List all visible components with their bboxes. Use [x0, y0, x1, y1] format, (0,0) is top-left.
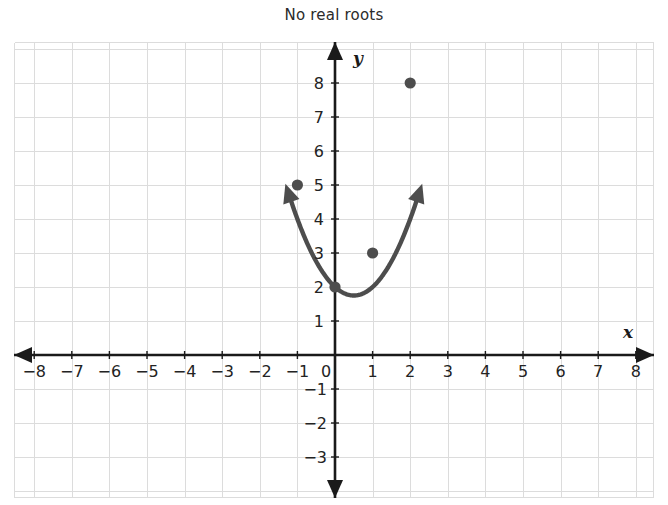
- graph-figure: No real roots: [0, 0, 668, 505]
- plot-area: −8−7−6−5−4−3−2−1012345678 12345678−1−2−3…: [14, 42, 654, 498]
- x-tick-label: 7: [593, 362, 603, 381]
- parabola-path: [291, 202, 416, 296]
- x-tick-label: −6: [98, 362, 122, 381]
- y-axis-arrow-top: [327, 42, 343, 60]
- x-tick-label: 3: [443, 362, 453, 381]
- y-axis-name-label: y: [352, 48, 364, 68]
- parabola-curve-group: [283, 184, 424, 296]
- y-tick-label: 2: [314, 278, 324, 297]
- data-point: [329, 281, 340, 292]
- y-tick-label: 8: [314, 74, 324, 93]
- x-tick-label: −5: [135, 362, 159, 381]
- x-tick-label: 5: [518, 362, 528, 381]
- x-tick-label: 2: [405, 362, 415, 381]
- x-tick-label: −7: [60, 362, 84, 381]
- x-tick-label: 8: [631, 362, 641, 381]
- y-tick-label: −1: [303, 380, 327, 399]
- chart-title: No real roots: [0, 6, 668, 24]
- data-point: [405, 77, 416, 88]
- x-tick-label: −3: [210, 362, 234, 381]
- data-point: [292, 179, 303, 190]
- x-tick-label: 1: [368, 362, 378, 381]
- coordinate-plane-svg: −8−7−6−5−4−3−2−1012345678 12345678−1−2−3…: [14, 42, 654, 498]
- y-tick-label: 3: [314, 244, 324, 263]
- y-tick-label: 1: [314, 312, 324, 331]
- data-point: [367, 247, 378, 258]
- y-tick-label: −2: [303, 414, 327, 433]
- x-tick-label: −8: [22, 362, 46, 381]
- y-axis-arrow-bottom: [327, 480, 343, 498]
- y-tick-label: 4: [314, 210, 324, 229]
- y-tick-label: 5: [314, 176, 324, 195]
- x-tick-label: 6: [556, 362, 566, 381]
- x-tick-label: −2: [248, 362, 272, 381]
- x-axis-name-label: x: [622, 322, 634, 342]
- x-tick-label: −1: [286, 362, 310, 381]
- x-axis-arrow-right: [636, 347, 654, 363]
- x-tick-label: 4: [480, 362, 490, 381]
- y-tick-label: −3: [303, 448, 327, 467]
- x-axis-tick-labels: −8−7−6−5−4−3−2−1012345678: [22, 362, 640, 381]
- x-axis-arrow-left: [14, 347, 32, 363]
- x-tick-label: −4: [173, 362, 197, 381]
- x-tick-label: 0: [321, 362, 331, 381]
- y-tick-label: 6: [314, 142, 324, 161]
- y-tick-label: 7: [314, 108, 324, 127]
